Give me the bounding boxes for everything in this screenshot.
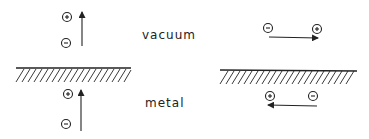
- negative-charge-icon: [62, 39, 71, 48]
- negative-charge-icon: [264, 24, 273, 33]
- dipole-arrow-right-icon: [269, 37, 318, 38]
- left-image-dipole: [62, 90, 82, 132]
- metal-label: metal: [145, 96, 184, 110]
- positive-charge-icon: [63, 13, 72, 22]
- positive-charge-icon: [266, 92, 275, 101]
- right-vacuum-dipole: [264, 24, 322, 39]
- left-metal-surface: [16, 68, 131, 82]
- dipole-image-diagram: [0, 0, 369, 139]
- left-vacuum-dipole: [62, 12, 83, 48]
- negative-charge-icon: [62, 120, 71, 129]
- dipole-arrow-left-icon: [268, 105, 317, 106]
- positive-charge-icon: [313, 25, 322, 34]
- right-image-dipole: [266, 92, 318, 107]
- vacuum-label: vacuum: [142, 28, 196, 42]
- positive-charge-icon: [64, 90, 73, 99]
- negative-charge-icon: [309, 92, 318, 101]
- right-metal-surface: [220, 70, 357, 84]
